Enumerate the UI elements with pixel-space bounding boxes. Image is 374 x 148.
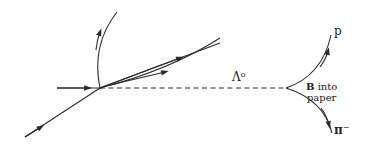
- upward-curved-track: [98, 12, 117, 88]
- pion-charge: −: [343, 123, 350, 132]
- lambda-superscript: o: [241, 70, 246, 79]
- proton-label: p: [334, 25, 342, 37]
- forward-track-upper-arrow: [100, 58, 180, 88]
- pion-label: π−: [334, 124, 350, 136]
- field-line-1: B into: [306, 81, 337, 92]
- forward-track-lower: [100, 38, 220, 88]
- pion-symbol: π: [334, 123, 343, 137]
- field-direction-text: into: [314, 81, 337, 92]
- particle-track-diagram: [0, 0, 374, 148]
- lower-left-arrow: [25, 127, 41, 137]
- lambda-label: Λo: [232, 71, 246, 83]
- proton-arrow: [320, 51, 328, 67]
- lambda-symbol: Λ: [232, 70, 241, 84]
- magnetic-field-label: B into paper: [306, 81, 337, 103]
- field-line-2: paper: [306, 92, 337, 103]
